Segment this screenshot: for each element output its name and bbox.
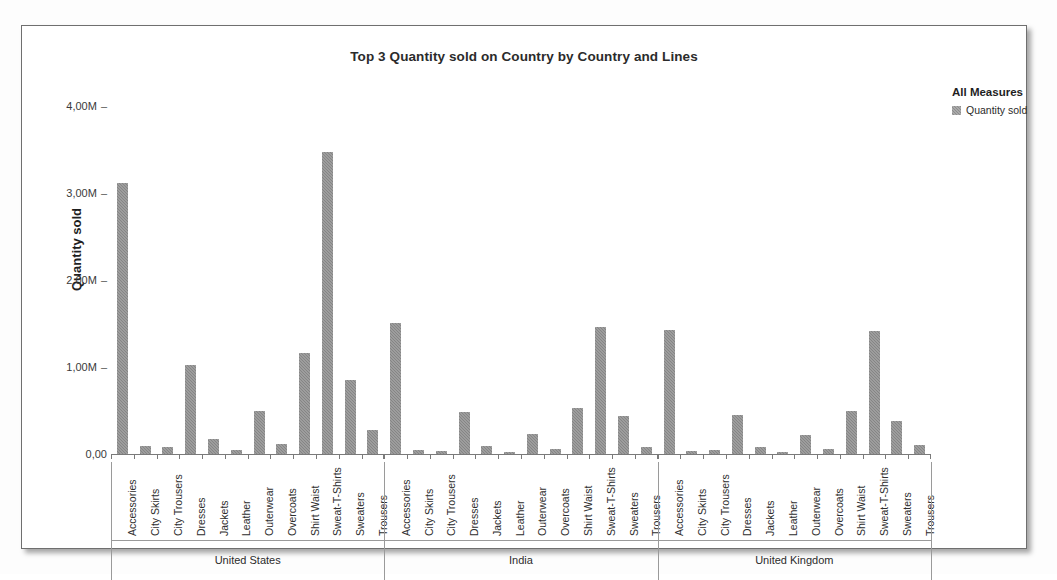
legend-item-label: Quantity sold [966,104,1027,116]
bar[interactable] [777,452,788,454]
bar[interactable] [823,449,834,454]
bar[interactable] [254,411,265,455]
category-label: City Skirts [696,489,708,536]
x-axis-tick-mark [680,454,681,459]
x-axis-tick-mark [658,454,659,459]
x-axis-tick-mark [430,454,431,459]
category-label: Accessories [673,479,685,536]
bar[interactable] [755,447,766,454]
bar[interactable] [914,445,925,454]
category-label: Shirt Waist [309,486,321,536]
bar[interactable] [550,449,561,454]
category-label: Outerwear [810,487,822,536]
bar[interactable] [504,452,515,454]
category-label: Sweaters [354,492,366,536]
category-label: City Trousers [719,474,731,536]
chart-panel: Top 3 Quantity sold on Country by Countr… [21,25,1027,549]
bar[interactable] [140,446,151,454]
legend-item[interactable]: Quantity sold [952,104,1057,116]
category-label: Jackets [491,500,503,536]
category-label: Trousers [377,495,389,536]
bar[interactable] [299,353,310,454]
x-axis-tick-mark [202,454,203,459]
x-axis-tick-mark [316,454,317,459]
y-axis-tick-dash: – [101,361,107,373]
category-label: City Skirts [423,489,435,536]
x-axis-tick-mark [157,454,158,459]
bar[interactable] [595,327,606,454]
category-label: Sweat-T-Shirts [605,467,617,536]
x-axis-tick-mark [840,454,841,459]
x-axis-tick-mark [772,454,773,459]
plot-inner: 0,001,00M–2,00M–3,00M–4,00M– Accessories… [111,106,931,454]
bar[interactable] [117,183,128,454]
bar[interactable] [208,439,219,454]
category-label: Leather [514,500,526,536]
category-label: Dresses [741,497,753,536]
bar[interactable] [891,421,902,454]
bar[interactable] [459,412,470,454]
x-axis-tick-mark [134,454,135,459]
group-separator [931,462,932,540]
x-axis-tick-mark [908,454,909,459]
legend-items: Quantity sold [952,104,1057,116]
bar[interactable] [527,434,538,454]
bar[interactable] [800,435,811,454]
category-label: Accessories [126,479,138,536]
x-axis-tick-mark [521,454,522,459]
category-label: Dresses [468,497,480,536]
plot-area: 0,001,00M–2,00M–3,00M–4,00M– Accessories… [111,81,931,454]
bar[interactable] [322,152,333,454]
bar[interactable] [276,444,287,454]
bar[interactable] [846,411,857,454]
bar[interactable] [185,365,196,454]
bar[interactable] [641,447,652,454]
category-label: Leather [240,500,252,536]
bar[interactable] [481,446,492,454]
bar[interactable] [367,430,378,454]
bar[interactable] [664,330,675,454]
category-label: Sweaters [901,492,913,536]
bar[interactable] [345,380,356,454]
x-axis-tick-mark [339,454,340,459]
group-separator [658,540,659,580]
x-axis-tick-mark [179,454,180,459]
bar[interactable] [413,450,424,454]
x-axis-tick-mark [749,454,750,459]
bar[interactable] [162,447,173,454]
bar[interactable] [436,451,447,454]
group-separator [384,540,385,580]
x-axis-tick-mark [567,454,568,459]
bar[interactable] [732,415,743,454]
bar[interactable] [572,408,583,454]
category-label: Dresses [195,497,207,536]
x-axis-tick-mark [362,454,363,459]
bar[interactable] [618,416,629,454]
x-axis-tick-mark [794,454,795,459]
category-label: Jackets [764,500,776,536]
group-separator [658,462,659,540]
bar[interactable] [709,450,720,454]
category-label: Shirt Waist [582,486,594,536]
bar[interactable] [869,331,880,454]
category-labels: AccessoriesCity SkirtsCity TrousersDress… [111,462,931,540]
bar[interactable] [686,451,697,454]
bar[interactable] [231,450,242,454]
category-label: Sweat-T-Shirts [331,467,343,536]
group-separator [931,540,932,580]
group-label: United States [111,554,384,566]
y-axis-tick-dash: – [101,100,107,112]
category-label: Overcoats [286,488,298,536]
category-label: Overcoats [559,488,571,536]
x-axis-tick-mark [863,454,864,459]
category-label: Accessories [400,479,412,536]
x-axis-tick-mark [817,454,818,459]
chart-title: Top 3 Quantity sold on Country by Countr… [22,49,1026,64]
category-label: Sweat-T-Shirts [878,467,890,536]
group-band-top-border [111,540,931,541]
bar[interactable] [390,323,401,454]
category-label: Shirt Waist [855,486,867,536]
category-label: City Trousers [445,474,457,536]
x-axis-tick-mark [384,454,385,459]
